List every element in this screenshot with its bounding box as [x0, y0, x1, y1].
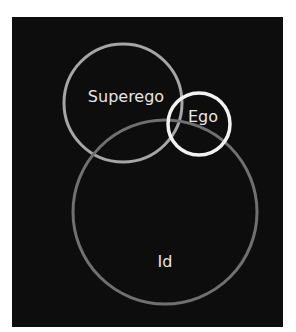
diagram-background: [12, 17, 283, 327]
id-label: Id: [158, 252, 173, 271]
psyche-diagram: Superego Ego Id: [0, 0, 296, 332]
superego-label: Superego: [88, 87, 164, 106]
ego-label: Ego: [188, 107, 218, 126]
